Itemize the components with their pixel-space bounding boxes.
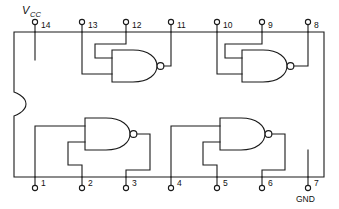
gate-top-left-bubble (157, 63, 164, 70)
wire-pin13-to-gate-top-left-inB (82, 32, 112, 74)
schematic-canvas: 14 13 12 11 10 9 8 1 2 3 4 5 6 7 V CC GN… (0, 0, 339, 209)
pin-label-14: 14 (41, 20, 51, 30)
pin-label-1: 1 (41, 178, 46, 188)
wire-gate-top-left-out-to-pin11 (164, 32, 171, 66)
wire-pin2-to-gate-bottom-left-inB (68, 142, 85, 177)
pin-label-7: 7 (314, 178, 319, 188)
pin-label-2: 2 (88, 178, 93, 188)
pin-label-10: 10 (223, 20, 233, 30)
pin-label-5: 5 (223, 178, 228, 188)
pin-label-3: 3 (132, 178, 137, 188)
wire-gate-top-right-out-to-pin8 (294, 32, 308, 66)
ic-package-outline (14, 32, 324, 177)
gate-bottom-right (171, 118, 285, 177)
wire-gate-bottom-left-out-to-pin3 (126, 134, 150, 177)
wire-pin12-to-gate-top-left-inA (95, 32, 126, 58)
pin-label-11: 11 (177, 20, 186, 30)
gate-top-right (217, 32, 308, 82)
pin-label-13: 13 (88, 20, 98, 30)
wire-gate-bottom-right-out-to-pin6 (262, 134, 285, 177)
wire-pin10-to-gate-top-right-inB (217, 32, 242, 74)
gate-bottom-left-bubble (130, 131, 137, 138)
ic-pinout-diagram: 14 13 12 11 10 9 8 1 2 3 4 5 6 7 V CC GN… (0, 0, 339, 209)
gate-bottom-left-body (85, 118, 130, 150)
gate-top-right-body (242, 50, 287, 82)
gate-bottom-left (35, 118, 150, 177)
pin-label-9: 9 (268, 20, 273, 30)
gate-top-right-bubble (287, 63, 294, 70)
gate-bottom-right-bubble (265, 131, 272, 138)
vcc-label-sub: CC (30, 10, 41, 19)
wire-pin5-to-gate-bottom-right-inB (203, 142, 220, 177)
gate-top-left-body (112, 50, 157, 82)
pin-label-6: 6 (268, 178, 273, 188)
gate-bottom-right-body (220, 118, 265, 150)
gate-top-left (82, 32, 171, 82)
pin-label-8: 8 (314, 20, 319, 30)
pin-label-12: 12 (132, 20, 142, 30)
wire-pin9-to-gate-top-right-inA (225, 32, 262, 58)
wire-pin1-to-gate-bottom-left-inA (35, 126, 85, 177)
pin-label-4: 4 (177, 178, 182, 188)
gnd-label: GND (296, 194, 315, 204)
wire-pin4-to-gate-bottom-right-inA (171, 126, 220, 177)
vcc-label: V CC (22, 4, 41, 19)
